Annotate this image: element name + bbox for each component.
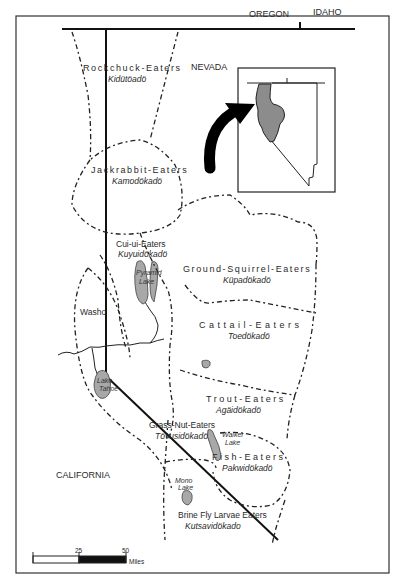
territory-grass-nut-native: Tövusidökadö (155, 431, 208, 441)
lake-label-pyramid-2: Lake (139, 278, 154, 285)
inset-frame (238, 68, 335, 192)
boundary-grass-nut-south (165, 459, 216, 468)
territory-jackrabbit-native-text: Kamodökadö (112, 176, 162, 186)
lake-label-pyramid-1: Pyramid (136, 269, 163, 277)
territory-rockchuck-native: Kidütöadö (108, 74, 147, 84)
territory-washo-label: Washo (80, 307, 106, 317)
territory-rockchuck-label: Rockchuck-Eaters (83, 63, 182, 73)
truckee-river (58, 339, 164, 355)
boundary-rockchuck (72, 32, 178, 160)
boundary-washo (75, 268, 172, 490)
truckee-river-to-pyramid (144, 300, 158, 343)
scale-bar-segment-black (79, 556, 126, 563)
boundary-trout-north (180, 370, 295, 395)
scale-bar: 25 50 Miles (33, 547, 145, 565)
territory-brine-fly-native: Kutsavidökado (185, 521, 241, 531)
lake-label-tahoe-1: Lake (97, 377, 112, 384)
mono-lake (182, 491, 192, 506)
lake-label-mono-2: Lake (178, 484, 193, 491)
lake-label-walker-1: Walker (222, 431, 244, 438)
state-label-california: CALIFORNIA (56, 470, 110, 480)
territory-cattail-label: Cattail-Eaters (199, 320, 303, 330)
scale-unit-label: Miles (129, 558, 145, 565)
nevada-inset-map (238, 68, 335, 192)
territory-fish-label: Fish-Eaters (212, 452, 286, 462)
territory-ground-squirrel-native: Küpadökadö (223, 275, 271, 285)
territory-cuiui-label: Cui-ui-Eaters (116, 239, 166, 249)
arrow-shaft (209, 113, 232, 168)
small-lake (202, 360, 210, 368)
scale-bar-segment-white (33, 556, 79, 563)
boundary-jackrabbit (72, 140, 182, 234)
state-label-oregon: OREGON (249, 9, 289, 19)
state-label-idaho: IDAHO (313, 7, 342, 17)
territory-cuiui-native: Kuyuidökadö (118, 249, 167, 259)
state-label-nevada: NEVADA (191, 62, 227, 72)
lake-label-tahoe-2: Tahoe (99, 385, 118, 392)
boundary-brine-fly-east (272, 500, 285, 545)
northern-paiute-territories-map: OREGON IDAHO NEVADA CALIFORNIA Rockchuck… (0, 0, 400, 588)
boundary-cuiui-inner (100, 255, 126, 348)
territory-fish-native: Pakwidökadö (222, 463, 273, 473)
territory-cattail-native: Toedökadö (228, 331, 270, 341)
territory-trout-native: Agäidökadö (215, 405, 261, 415)
territory-ground-squirrel-label: Ground-Squirrel-Eaters (183, 264, 311, 274)
boundary-trout-east (287, 395, 295, 440)
scale-label-25: 25 (75, 547, 83, 554)
territory-grass-nut-label: Grass-Nut-Eaters (149, 420, 215, 430)
lake-label-walker-2: Lake (225, 439, 240, 446)
scale-label-50: 50 (122, 547, 130, 554)
boundary-ground-squirrel (178, 195, 317, 264)
boundary-ground-squirrel-south (185, 285, 316, 313)
territory-trout-label: Trout-Eaters (206, 394, 286, 404)
territory-brine-fly-label: Brine Fly Larvae Eaters (178, 510, 267, 520)
territory-jackrabbit-label: Jackrabbit-Eaters (91, 165, 188, 175)
lake-label-mono-1: Mono (175, 477, 193, 484)
